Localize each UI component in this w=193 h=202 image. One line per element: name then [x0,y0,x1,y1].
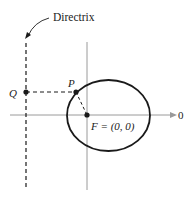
directrix-pointer [28,18,49,36]
directrix-label: Directrix [53,12,95,24]
point-p [73,89,78,94]
focus-label-text: F = (0, 0) [91,120,134,132]
focus-label: F = (0, 0) [91,121,134,132]
ellipse-diagram [0,0,193,202]
axis-end-label: 0 [178,110,184,121]
point-q-label: Q [9,88,17,99]
pointer-arrow-icon [25,32,31,39]
point-q [23,89,28,94]
point-f [84,112,89,117]
segment-pf [76,92,87,115]
axis-arrow-icon [170,112,177,118]
point-p-label: P [68,78,75,89]
